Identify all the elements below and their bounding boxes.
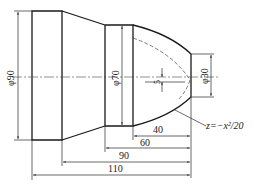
svg-text:φ70: φ70 — [110, 70, 121, 86]
dim-90: 90 — [63, 150, 190, 162]
svg-text:5: 5 — [153, 80, 162, 84]
dim-60: 60 — [106, 137, 190, 148]
svg-text:40: 40 — [153, 124, 163, 135]
svg-text:90: 90 — [119, 150, 129, 161]
dim-phi30: φ30 — [191, 54, 214, 97]
svg-text:φ30: φ30 — [199, 68, 210, 84]
svg-text:110: 110 — [108, 163, 123, 174]
dim-110: 110 — [33, 163, 190, 175]
svg-text:60: 60 — [140, 137, 150, 148]
dim-40: 40 — [134, 124, 190, 136]
part-drawing: φ90 φ70 φ30 5 40 60 90 110 — [0, 0, 254, 189]
svg-text:z=−x²/20: z=−x²/20 — [205, 120, 244, 131]
curve-equation-callout: z=−x²/20 — [175, 110, 244, 131]
dim-phi70: φ70 — [110, 26, 122, 125]
svg-text:φ90: φ90 — [5, 70, 16, 86]
dim-phi90: φ90 — [5, 11, 32, 140]
phantom-curve — [133, 38, 190, 100]
dim-offset-5: 5 — [145, 68, 185, 92]
